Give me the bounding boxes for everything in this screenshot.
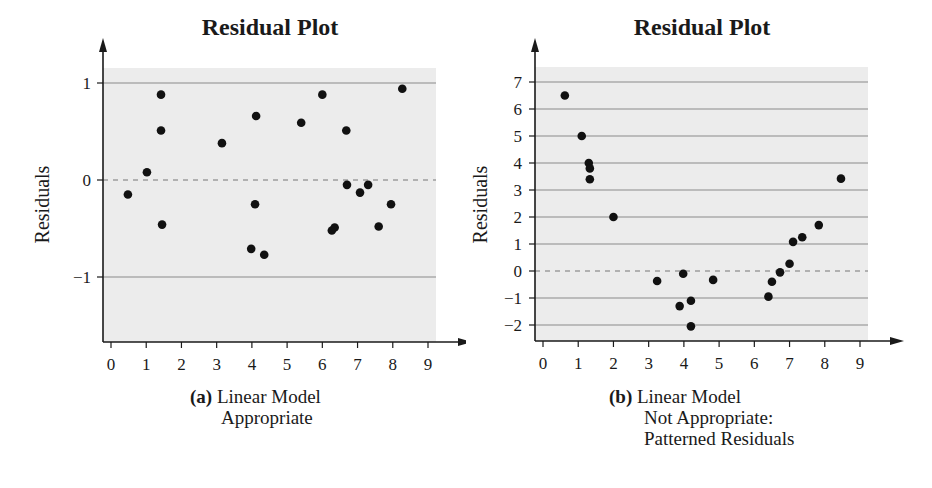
data-point bbox=[157, 90, 166, 99]
y-tick-label: −1 bbox=[504, 289, 522, 308]
x-tick-label: 0 bbox=[107, 355, 116, 374]
x-tick-label: 4 bbox=[680, 354, 689, 373]
data-point bbox=[768, 278, 777, 287]
x-axis-arrow-icon bbox=[890, 337, 904, 345]
data-point bbox=[374, 222, 383, 231]
y-axis-arrow-icon bbox=[531, 38, 539, 52]
data-point bbox=[609, 213, 618, 222]
y-tick-label: 2 bbox=[514, 208, 523, 227]
data-point bbox=[653, 277, 662, 286]
x-tick-label: 5 bbox=[715, 354, 724, 373]
y-tick-label: −2 bbox=[504, 316, 522, 335]
data-point bbox=[252, 112, 261, 121]
caption-line-1-b: Linear Model bbox=[637, 386, 741, 407]
y-tick-label: 0 bbox=[83, 171, 92, 190]
caption-b: (b) Linear Model Not Appropriate: Patter… bbox=[609, 386, 794, 449]
data-point bbox=[157, 126, 166, 135]
panel-b: Residual Plot Residuals 76543210−1−20123… bbox=[466, 0, 932, 488]
data-point bbox=[356, 188, 365, 197]
data-point bbox=[218, 139, 227, 148]
y-tick-label: −1 bbox=[73, 268, 91, 287]
data-point bbox=[318, 90, 327, 99]
data-point bbox=[343, 181, 352, 190]
data-point bbox=[675, 302, 684, 311]
plot-background bbox=[103, 68, 436, 342]
y-tick-label: 5 bbox=[514, 127, 523, 146]
data-point bbox=[785, 259, 794, 268]
data-point bbox=[586, 164, 595, 173]
data-point bbox=[247, 245, 256, 254]
y-tick-label: 3 bbox=[514, 181, 523, 200]
data-point bbox=[709, 276, 718, 285]
x-tick-label: 9 bbox=[424, 355, 433, 374]
caption-line-2-b: Not Appropriate: bbox=[609, 407, 773, 428]
x-tick-label: 0 bbox=[539, 354, 548, 373]
data-point bbox=[124, 190, 133, 199]
x-tick-label: 5 bbox=[283, 355, 292, 374]
y-tick-label: 1 bbox=[514, 235, 523, 254]
y-axis-arrow-icon bbox=[99, 38, 107, 52]
y-tick-label: 7 bbox=[514, 73, 523, 92]
data-point bbox=[764, 292, 773, 301]
caption-label-b: (b) bbox=[609, 386, 632, 407]
data-point bbox=[586, 175, 595, 184]
data-point bbox=[330, 223, 339, 232]
x-tick-label: 6 bbox=[750, 354, 759, 373]
caption-line-2-a: Appropriate bbox=[190, 407, 313, 428]
x-tick-label: 1 bbox=[142, 355, 151, 374]
caption-line-3-b: Patterned Residuals bbox=[609, 428, 794, 449]
data-point bbox=[387, 200, 396, 209]
y-tick-label: 1 bbox=[83, 74, 92, 93]
x-tick-label: 2 bbox=[177, 355, 186, 374]
x-tick-label: 7 bbox=[353, 355, 362, 374]
caption-label-a: (a) bbox=[190, 386, 212, 407]
data-point bbox=[297, 118, 306, 127]
caption-line-1-a: Linear Model bbox=[217, 386, 321, 407]
y-tick-label: 4 bbox=[514, 154, 523, 173]
data-point bbox=[342, 126, 351, 135]
x-tick-label: 2 bbox=[609, 354, 618, 373]
x-axis-arrow-icon bbox=[458, 338, 466, 346]
data-point bbox=[798, 233, 807, 242]
data-point bbox=[679, 269, 688, 278]
data-point bbox=[814, 221, 823, 230]
x-tick-label: 6 bbox=[318, 355, 327, 374]
x-tick-label: 3 bbox=[212, 355, 221, 374]
data-point bbox=[561, 91, 570, 100]
x-tick-label: 9 bbox=[856, 354, 865, 373]
x-tick-label: 1 bbox=[574, 354, 583, 373]
x-tick-label: 8 bbox=[821, 354, 830, 373]
x-tick-label: 7 bbox=[785, 354, 794, 373]
data-point bbox=[687, 322, 696, 331]
data-point bbox=[776, 268, 785, 277]
data-point bbox=[158, 220, 167, 229]
x-tick-label: 3 bbox=[644, 354, 653, 373]
data-point bbox=[837, 174, 846, 183]
data-point bbox=[260, 250, 269, 259]
data-point bbox=[143, 168, 152, 177]
data-point bbox=[577, 132, 586, 141]
caption-a: (a) Linear Model Appropriate bbox=[190, 386, 321, 428]
y-tick-label: 6 bbox=[514, 100, 523, 119]
data-point bbox=[687, 296, 696, 305]
data-point bbox=[789, 238, 798, 247]
data-point bbox=[251, 200, 260, 209]
data-point bbox=[398, 85, 407, 94]
plot-background bbox=[535, 67, 868, 341]
x-tick-label: 8 bbox=[389, 355, 398, 374]
data-point bbox=[364, 181, 373, 190]
x-tick-label: 4 bbox=[248, 355, 257, 374]
panel-a: Residual Plot Residuals 10−10123456789 (… bbox=[0, 0, 466, 488]
y-tick-label: 0 bbox=[514, 262, 523, 281]
